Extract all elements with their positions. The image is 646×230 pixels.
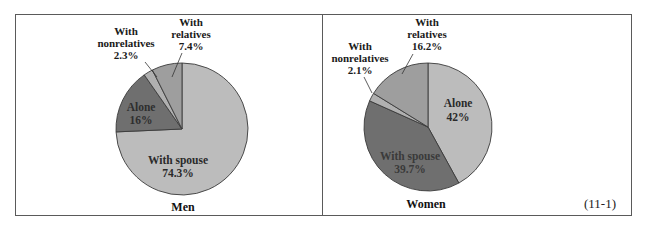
women-rel-pct: 16.2% — [412, 40, 442, 52]
men-nonrel-label-line1: With — [114, 25, 138, 37]
figure-number: (11-1) — [584, 196, 616, 211]
men-rel-label-line1: With — [179, 16, 203, 28]
women-rel-label-line2: relatives — [407, 28, 447, 40]
men-nonrel-label-line2: nonrelatives — [97, 37, 155, 49]
women-rel-label-line1: With — [415, 16, 439, 28]
women-pie — [364, 63, 492, 191]
men-rel-pct: 7.4% — [179, 40, 204, 52]
women-nonrel-label-line2: nonrelatives — [331, 52, 389, 64]
men-nonrel-pct: 2.3% — [114, 49, 139, 61]
men-alone-pct: 16% — [130, 114, 153, 126]
women-nonrel-pct: 2.1% — [348, 64, 373, 76]
men-spouse-pct: 74.3% — [162, 167, 194, 179]
men-caption: Men — [171, 200, 195, 214]
women-nonrel-leader — [364, 77, 372, 93]
men-rel-label-line2: relatives — [171, 28, 211, 40]
women-caption: Women — [406, 197, 446, 211]
women-spouse-label: With spouse — [380, 150, 440, 163]
women-alone-label: Alone — [444, 97, 473, 109]
men-alone-label: Alone — [127, 101, 156, 113]
pie-charts: With nonrelatives 2.3% With relatives 7.… — [0, 0, 646, 230]
women-nonrel-label-line1: With — [348, 40, 372, 52]
women-alone-pct: 42% — [447, 111, 470, 123]
men-spouse-label: With spouse — [148, 154, 208, 167]
women-spouse-pct: 39.7% — [394, 163, 426, 175]
